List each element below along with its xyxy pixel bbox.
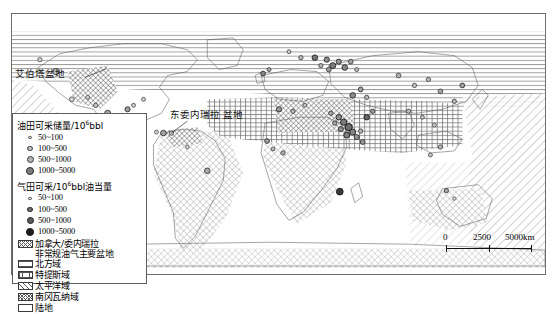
legend-label-gas-4: 1000~5000 (38, 227, 75, 237)
gas-circle-s-icon (22, 207, 38, 212)
legend-label-gas-1: 50~100 (38, 193, 63, 203)
oil-circle-xs-icon (22, 136, 38, 140)
oil-circle-s-icon (22, 146, 38, 151)
legend-item-oil-1000-5000: 1000~5000 (16, 166, 143, 177)
gas-circle-xs-icon (22, 197, 38, 201)
legend-gas-header-tail: bbl油当量 (71, 182, 112, 192)
scale-tick-label-2: 5000km (505, 232, 535, 242)
legend-item-gas-100-500: 100~500 (16, 204, 143, 215)
legend-item-gas-50-100: 50~100 (16, 193, 143, 204)
legend-label-pattern-6: 陆地 (35, 303, 52, 313)
scale-bar: 0 2500 5000km (443, 232, 538, 252)
legend-item-land: 陆地 (16, 303, 143, 314)
legend-label-pattern-5: 南冈瓦纳域 (35, 292, 79, 302)
legend-item-gas-500-1000: 500~1000 (16, 215, 143, 226)
legend-oil-header: 油田可采储量/106bbl (17, 117, 143, 132)
scale-bar-labels: 0 2500 5000km (443, 232, 538, 244)
legend-oil-header-text: 油田可采储量/10 (17, 121, 85, 131)
legend-label-pattern-1b: 非常规油气主要盆地 (35, 249, 113, 259)
scale-tick-label-1: 2500 (473, 232, 491, 242)
legend-gas-header-text: 气田可采/10 (17, 182, 67, 192)
legend-oil-header-tail: bbl (89, 121, 103, 131)
gas-circle-l-icon (22, 228, 38, 237)
legend-item-oil-50-100: 50~100 (16, 132, 143, 143)
legend-label-pattern-3: 特提斯域 (35, 270, 70, 280)
horizontal-lines-swatch-icon (18, 259, 35, 269)
label-east-venezuela-line1: 东委内瑞拉 (170, 109, 220, 120)
legend-label-pattern-1a: 加拿大/委内瑞拉 (35, 239, 113, 249)
oil-circle-l-icon (22, 167, 38, 176)
legend-item-tethys-domain: 特提斯域 (16, 270, 143, 281)
legend-item-oil-500-1000: 500~1000 (16, 154, 143, 165)
label-east-venezuela-basin: 东委内瑞拉 盆地 (170, 110, 243, 121)
legend-label-pattern-2: 北方域 (35, 259, 61, 269)
legend-label-oil-1: 50~100 (38, 133, 63, 143)
label-alberta-basin: 艾伯塔盆地 (15, 69, 65, 80)
legend-item-south-gondwana-domain: 南冈瓦纳域 (16, 292, 143, 303)
legend-label-gas-3: 500~1000 (38, 216, 71, 226)
cross-hatch-swatch-icon (18, 239, 35, 249)
legend-label-oil-4: 1000~5000 (38, 166, 75, 176)
legend-label-gas-2: 100~500 (38, 205, 67, 215)
legend-label-oil-2: 100~500 (38, 144, 67, 154)
legend-item-unconventional-basins: 加拿大/委内瑞拉 非常规油气主要盆地 (16, 239, 143, 259)
legend-item-gas-1000-5000: 1000~5000 (16, 226, 143, 237)
legend-item-pacific-domain: 太平洋域 (16, 281, 143, 292)
x-hatch-swatch-icon (18, 292, 35, 302)
map-legend: 油田可采储量/106bbl 50~100 100~500 500~1000 10… (12, 113, 147, 284)
scale-bar-line (443, 245, 538, 252)
plain-swatch-icon (18, 303, 35, 313)
diagonal-lines-swatch-icon (18, 281, 35, 291)
legend-item-boreal-domain: 北方域 (16, 259, 143, 270)
gas-circle-m-icon (22, 217, 38, 224)
oil-circle-m-icon (22, 156, 38, 163)
label-east-venezuela-line2: 盆地 (223, 109, 243, 120)
legend-item-oil-100-500: 100~500 (16, 143, 143, 154)
legend-label-pattern-4: 太平洋域 (35, 281, 70, 291)
legend-gas-header: 气田可采/106bbl油当量 (17, 178, 143, 193)
scale-tick-label-0: 0 (443, 232, 448, 242)
legend-label-oil-3: 500~1000 (38, 155, 71, 165)
grid-swatch-icon (18, 270, 35, 280)
